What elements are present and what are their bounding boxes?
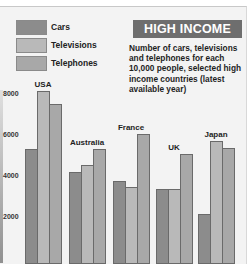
country-label-australia: Australia [63,138,111,147]
y-tick-4000: 4000 [3,172,19,179]
country-label-usa: USA [19,80,67,89]
bar-uk-telephones [180,154,193,264]
legend-swatch-televisions [16,38,47,53]
legend-swatch-telephones [16,56,47,71]
bar-japan-telephones [222,148,235,264]
y-tick-2000: 2000 [3,213,19,220]
bar-france-telephones [137,134,150,264]
bar-usa-telephones [49,104,62,264]
chart-title: HIGH INCOME [133,20,242,38]
country-label-japan: Japan [192,130,240,139]
country-label-france: France [107,123,155,132]
legend-label: Telephones [51,58,98,68]
legend-swatch-cars [16,20,47,35]
y-tick-6000: 6000 [3,131,19,138]
country-label-uk: UK [150,143,198,152]
chart-subtitle: Number of cars, televisions and telephon… [129,43,247,94]
y-tick-8000: 8000 [3,90,19,97]
bar-australia-telephones [93,149,106,264]
legend-label: Cars [51,22,70,32]
legend-label: Televisions [51,40,97,50]
